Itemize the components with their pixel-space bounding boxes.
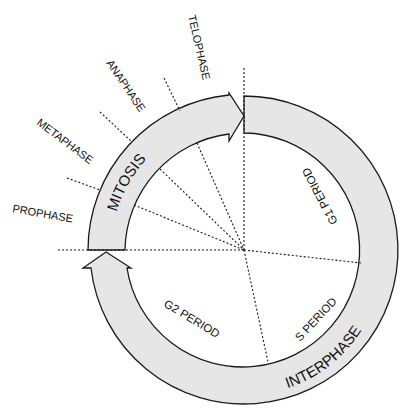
label-metaphase: METAPHASE	[35, 116, 96, 166]
label-g2-period: G2 PERIOD	[162, 297, 222, 340]
mitosis-ring	[88, 93, 244, 250]
label-anaphase: ANAPHASE	[104, 57, 147, 113]
divider-s-g2	[244, 250, 268, 362]
divider-anaphase-inner	[160, 169, 244, 250]
divider-telophase-outer	[164, 78, 180, 111]
divider-metaphase-outer	[67, 178, 100, 190]
label-prophase: PROPHASE	[12, 202, 74, 224]
divider-g1-s	[244, 250, 361, 263]
divider-anaphase-outer	[100, 112, 131, 141]
label-telophase: TELOPHASE	[186, 14, 213, 81]
divider-telophase-inner	[197, 143, 244, 250]
cell-cycle-diagram: PROPHASE METAPHASE ANAPHASE TELOPHASE MI…	[0, 0, 411, 415]
divider-metaphase-inner	[134, 205, 244, 250]
